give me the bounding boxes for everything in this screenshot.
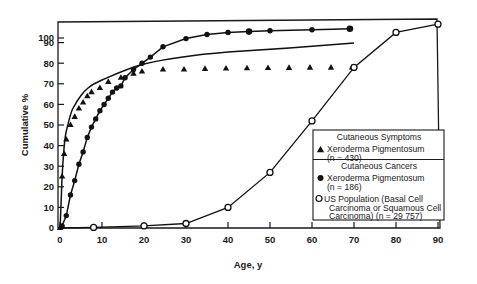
y-tick-label-30: 30 — [43, 161, 54, 172]
x-tick-label-10: 10 — [97, 234, 108, 245]
y-tick-label-60: 60 — [43, 99, 54, 110]
cumulative-percent-line-chart: 0 10 20 30 40 50 60 70 80 90 100 — [0, 0, 477, 284]
y-tick-label-70: 70 — [43, 78, 54, 89]
x-tick-label-70: 70 — [349, 234, 360, 245]
legend-group-3-line3: Carcinoma) (n = 29 757) — [329, 211, 423, 221]
x-tick-label-90: 90 — [433, 234, 444, 245]
x-tick-label-40: 40 — [223, 234, 234, 245]
y-tick-label-100: 100 — [38, 32, 54, 43]
y-tick-label-0: 0 — [49, 222, 54, 233]
y-tick-label-20: 20 — [43, 181, 54, 192]
y-tick-label-40: 40 — [43, 140, 54, 151]
legend-group-2-line2: (n = 186) — [327, 182, 362, 192]
chart-figure: 0 10 20 30 40 50 60 70 80 90 100 — [0, 0, 477, 284]
x-tick-label-20: 20 — [139, 234, 150, 245]
legend-open-circle-icon — [316, 196, 322, 202]
y-tick-label-80: 80 — [43, 58, 54, 69]
x-tick-label-50: 50 — [265, 234, 276, 245]
y-tick-label-10: 10 — [43, 202, 54, 213]
chart-legend: Cutaneous Symptoms Xeroderma Pigmentosum… — [313, 130, 444, 221]
x-tick-label-30: 30 — [181, 234, 192, 245]
x-axis-title: Age, y — [234, 259, 263, 270]
legend-filled-circle-icon — [318, 175, 324, 181]
y-axis-title: Cumulative % — [19, 93, 30, 156]
y-tick-label-50: 50 — [43, 119, 54, 130]
x-tick-label-0: 0 — [57, 234, 62, 245]
x-tick-label-80: 80 — [391, 234, 402, 245]
legend-group-2-header: Cutaneous Cancers — [341, 161, 417, 171]
x-tick-label-60: 60 — [307, 234, 318, 245]
legend-group-1-header: Cutaneous Symptoms — [337, 132, 422, 142]
